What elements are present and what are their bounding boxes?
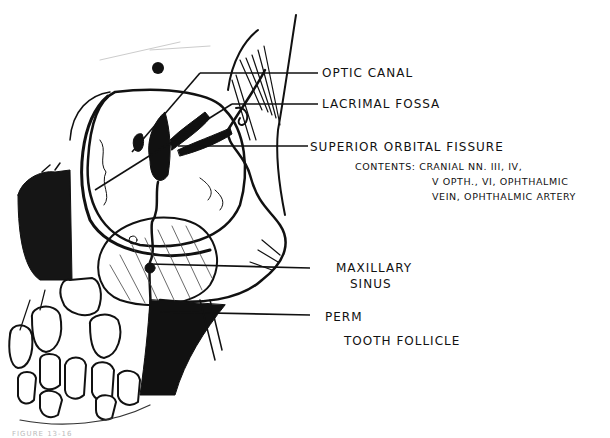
orbit-maxilla-drawing [0, 0, 610, 438]
leader-maxillary-sinus [150, 264, 310, 268]
label-lacrimal-fossa: LACRIMAL FOSSA [322, 97, 440, 111]
label-maxillary-sinus-line2: SINUS [350, 277, 392, 291]
figure-caption: FIGURE 13-16 [12, 430, 73, 438]
label-contents-line1: CONTENTS: CRANIAL NN. III, IV, [355, 160, 522, 174]
label-optic-canal: OPTIC CANAL [322, 66, 413, 80]
label-perm-tooth-follicle: TOOTH FOLLICLE [344, 334, 460, 348]
label-superior-orbital-fissure: SUPERIOR ORBITAL FISSURE [310, 140, 504, 154]
label-maxillary-sinus-line1: MAXILLARY [336, 261, 412, 275]
foramen-dot [152, 62, 164, 74]
anatomy-figure: OPTIC CANAL LACRIMAL FOSSA SUPERIOR ORBI… [0, 0, 610, 438]
label-contents-line3: VEIN, OPHTHALMIC ARTERY [432, 190, 576, 204]
label-perm-line1: PERM [325, 310, 363, 324]
label-contents-line2: V OPTH., VI, OPHTHALMIC [432, 175, 568, 189]
